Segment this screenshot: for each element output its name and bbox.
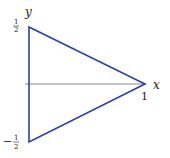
triangle-diagram: y x 1 1 2 − 1 2 — [0, 0, 170, 158]
svg-text:2: 2 — [14, 143, 18, 151]
x-axis-label: x — [153, 78, 160, 92]
y-tick-neg-half: − 1 2 — [3, 134, 19, 151]
svg-text:1: 1 — [14, 18, 18, 26]
svg-text:1: 1 — [14, 134, 18, 142]
y-tick-half: 1 2 — [13, 18, 19, 34]
y-axis-label: y — [24, 5, 32, 19]
x-tick-one: 1 — [141, 90, 148, 103]
svg-text:−: − — [3, 135, 12, 148]
svg-text:2: 2 — [14, 26, 18, 34]
